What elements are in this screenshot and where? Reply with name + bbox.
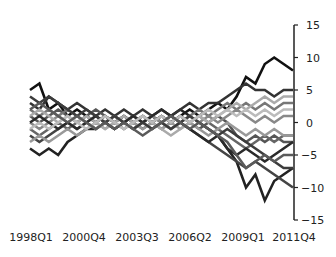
y-tick-label: −5 (301, 149, 317, 162)
y-tick-label: −10 (301, 182, 324, 195)
y-axis: 151050−5−10−15 (294, 19, 324, 227)
y-tick-label: 15 (306, 19, 320, 32)
x-tick-label: 2000Q4 (62, 231, 106, 244)
y-tick-label: −15 (301, 214, 324, 227)
y-tick-label: 5 (306, 84, 313, 97)
y-tick-label: 10 (306, 52, 320, 65)
x-tick-label: 2003Q3 (115, 231, 159, 244)
x-tick-label: 2006Q2 (168, 231, 212, 244)
line-chart: 151050−5−10−15 1998Q12000Q42003Q32006Q22… (0, 0, 336, 257)
x-tick-label: 2009Q1 (221, 231, 265, 244)
x-axis-labels: 1998Q12000Q42003Q32006Q22009Q12011Q4 (9, 231, 316, 244)
series-line-s9 (30, 123, 293, 143)
series-line-s8 (30, 110, 293, 130)
y-tick-label: 0 (306, 117, 313, 130)
series-lines (30, 58, 293, 201)
series-line-s13 (30, 110, 293, 130)
x-tick-label: 2011Q4 (272, 231, 316, 244)
x-tick-label: 1998Q1 (9, 231, 53, 244)
